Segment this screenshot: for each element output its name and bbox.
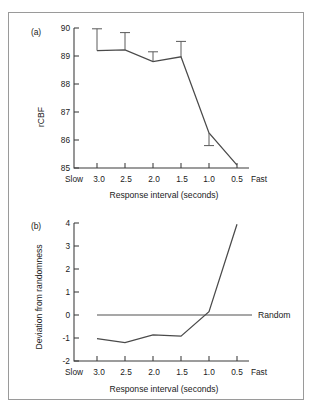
panel-b-plot: Deviation from randomness -2 -1 0 1 2 3 … [9, 209, 305, 401]
panel-b-xtick-slow: Slow [65, 367, 84, 377]
panel-a-data-line [97, 50, 237, 165]
panel-b-ytick-4: 4 [65, 218, 70, 228]
panel-b-x-axis-title: Response interval (seconds) [110, 384, 219, 394]
panel-a-plot: rCBF 85 86 87 88 89 90 [9, 13, 305, 209]
panel-b-xtick-1.5: 1.5 [176, 367, 188, 377]
panel-b-xtick-2.0: 2.0 [148, 367, 160, 377]
panel-b-xtick-3.0: 3.0 [93, 367, 105, 377]
panel-b-data-line [97, 224, 237, 342]
panel-a-ytick-86: 86 [61, 135, 71, 145]
panel-b-xtick-1.0: 1.0 [203, 367, 215, 377]
panel-b-xtick-0.5: 0.5 [231, 367, 243, 377]
panel-b-xtick-2.5: 2.5 [120, 367, 132, 377]
panel-b-random-label: Random [258, 310, 290, 320]
panel-a-ytick-87: 87 [61, 107, 71, 117]
panel-a-xtick-1.5: 1.5 [176, 174, 188, 184]
chart-panel-b: (b) Deviation from randomness -2 -1 0 1 … [9, 209, 303, 401]
panel-a-y-axis-title: rCBF [36, 107, 46, 127]
figure-frame: (a) rCBF 85 86 87 88 89 90 [8, 12, 304, 400]
panel-b-ytick-1: 1 [65, 287, 70, 297]
panel-a-xtick-0.5: 0.5 [231, 174, 243, 184]
panel-a-ytick-88: 88 [61, 79, 71, 89]
panel-a-ytick-85: 85 [61, 163, 71, 173]
panel-a-xtick-3.0: 3.0 [93, 174, 105, 184]
panel-b-y-axis-title: Deviation from randomness [34, 244, 44, 349]
panel-a-ytick-90: 90 [61, 23, 71, 33]
panel-b-xtick-fast: Fast [251, 367, 268, 377]
panel-b-ytick-0: 0 [65, 310, 70, 320]
chart-panel-a: (a) rCBF 85 86 87 88 89 90 [9, 13, 303, 209]
panel-a-xtick-2.0: 2.0 [148, 174, 160, 184]
panel-b-ytick--1: -1 [63, 333, 71, 343]
panel-a-ytick-89: 89 [61, 51, 71, 61]
panel-b-ytick-3: 3 [65, 241, 70, 251]
panel-a-error-bars [92, 29, 214, 146]
panel-a-x-axis-title: Response interval (seconds) [110, 190, 219, 200]
panel-a-xtick-2.5: 2.5 [120, 174, 132, 184]
panel-a-xtick-slow: Slow [65, 174, 84, 184]
panel-b-ytick-2: 2 [65, 264, 70, 274]
panel-a-xtick-fast: Fast [251, 174, 268, 184]
panel-a-xtick-1.0: 1.0 [203, 174, 215, 184]
panel-b-ytick--2: -2 [63, 356, 71, 366]
